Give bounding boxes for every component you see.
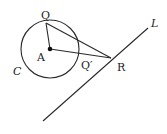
line-l <box>43 28 148 121</box>
label-l: L <box>150 17 158 30</box>
label-a: A <box>36 51 46 64</box>
center-point-a <box>48 47 53 52</box>
label-q-prime: Q′ <box>81 59 93 72</box>
label-r: R <box>117 61 126 74</box>
geometry-diagram: Q A C Q′ R L <box>0 0 167 134</box>
label-q: Q <box>41 9 50 22</box>
segment-aq <box>46 23 50 49</box>
label-c: C <box>13 65 22 78</box>
